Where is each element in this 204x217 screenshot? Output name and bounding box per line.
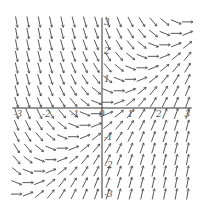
x-tick-label: 1 [128, 109, 134, 119]
slope-segment [93, 155, 99, 164]
x-tick-label: -2 [42, 109, 51, 119]
x-tick-label: 0 [99, 109, 105, 119]
slope-segment [25, 120, 30, 130]
slope-segment [116, 52, 123, 60]
y-tick-label: -1 [104, 132, 113, 142]
slope-segment [151, 120, 155, 130]
slope-segment [81, 155, 88, 163]
slope-segment [71, 63, 75, 73]
slope-segment [106, 28, 110, 38]
slope-segment [94, 40, 98, 50]
slope-segment [127, 41, 134, 49]
slope-segment [174, 97, 178, 107]
slope-segment [83, 51, 87, 61]
y-tick-label: -3 [104, 189, 113, 199]
slope-segment [81, 87, 88, 95]
slope-segment [104, 64, 111, 72]
slope-segment [160, 64, 169, 71]
slope-segment [149, 76, 158, 83]
slope-segment [128, 29, 134, 38]
slope-segment [140, 132, 144, 142]
slope-segment [60, 74, 64, 84]
slope-segment [37, 97, 41, 107]
slope-segment [185, 63, 191, 72]
slope-segment [12, 168, 21, 175]
slope-segment [59, 98, 65, 107]
slope-segment [93, 75, 100, 83]
slope-segment [14, 120, 18, 130]
y-tick-label: 2 [103, 46, 110, 56]
slope-segment [139, 109, 145, 118]
slope-segment [36, 121, 42, 130]
slope-segment [47, 121, 54, 129]
slope-segment [117, 28, 122, 38]
slope-segment [128, 17, 133, 27]
slope-segment [92, 133, 101, 140]
slope-segment [185, 86, 189, 96]
slope-segment [139, 17, 145, 26]
slope-segment [71, 86, 77, 95]
slope-segment [185, 74, 190, 84]
slope-segment [150, 87, 157, 95]
slope-segment [81, 99, 90, 106]
slope-segment [138, 29, 145, 37]
slope-segment [116, 40, 122, 49]
slope-segment [184, 52, 191, 60]
x-tick-label: 3 [185, 109, 191, 119]
slope-segment [161, 75, 168, 83]
slope-segment [139, 120, 144, 130]
slope-segment [81, 145, 90, 152]
slope-segment [150, 18, 157, 26]
slope-segment [103, 122, 112, 129]
slope-segment [13, 155, 20, 163]
slope-segment [46, 179, 55, 186]
slope-segment [71, 178, 77, 187]
slope-segment [36, 132, 43, 140]
slope-segment [70, 167, 77, 175]
slope-segment [174, 86, 179, 96]
x-tick-label: -1 [71, 109, 80, 119]
slope-segment [71, 189, 76, 199]
slope-segment [162, 86, 168, 95]
slope-segment [128, 132, 133, 142]
slope-segment [14, 132, 19, 142]
slope-segment [26, 109, 30, 119]
slope-segment [149, 30, 158, 37]
slope-segment [35, 191, 44, 198]
slope-segment [82, 63, 87, 73]
slope-segment [46, 133, 55, 140]
slope-segment [162, 97, 167, 107]
slope-segment [183, 41, 192, 48]
slope-segment [47, 190, 54, 198]
slope-segment [128, 121, 134, 130]
y-tick-label: 3 [104, 17, 110, 27]
slope-segment [25, 132, 31, 141]
slope-segment [70, 98, 77, 106]
slope-segment [71, 74, 76, 84]
slope-segment [117, 155, 121, 165]
slope-segment [115, 64, 124, 71]
slope-segment [60, 86, 65, 96]
slope-segment [92, 87, 101, 94]
slope-segment [58, 122, 67, 129]
slope-segment [49, 86, 53, 96]
slope-segment [82, 75, 88, 84]
slope-segment [116, 132, 122, 141]
slope-segment [82, 178, 87, 188]
slope-segment [173, 64, 180, 72]
slope-segment [128, 143, 132, 153]
slope-segment [93, 63, 99, 72]
slope-segment [94, 166, 99, 176]
slope-segment [117, 143, 122, 153]
y-tick-label: -2 [104, 160, 113, 170]
slope-segment [138, 98, 145, 106]
slope-segment [35, 145, 44, 152]
slope-segment [82, 166, 88, 175]
slope-segment [14, 144, 20, 153]
slope-segment [58, 168, 67, 175]
slope-segment [24, 156, 33, 163]
slope-segment [138, 41, 147, 48]
slope-field-plot: -3-2-10123-3-2-1123 [0, 0, 204, 217]
x-tick-label: 2 [155, 109, 162, 119]
slope-segment [138, 87, 147, 94]
